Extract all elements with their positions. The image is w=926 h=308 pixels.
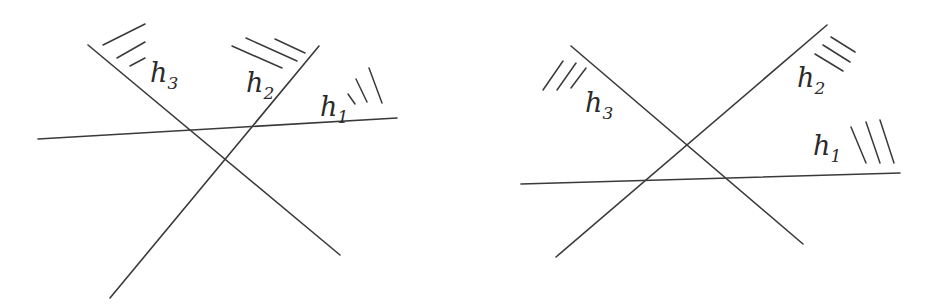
hatch-mark (823, 45, 850, 62)
hatch-marks-h2 (232, 38, 305, 68)
label-subscript: 1 (337, 107, 348, 127)
hatch-marks-h3 (103, 24, 145, 66)
label-base: h (246, 67, 263, 98)
panel-left: h3h2h1 (38, 24, 397, 298)
label-h1: h1 (320, 91, 348, 127)
label-h3: h3 (585, 87, 613, 123)
label-subscript: 2 (813, 78, 825, 98)
hatch-mark (130, 58, 145, 66)
boundary-line-h2 (556, 25, 827, 257)
label-subscript: 2 (262, 83, 274, 103)
hatch-mark (232, 46, 282, 68)
hatch-mark (246, 38, 297, 61)
label-subscript: 1 (830, 146, 841, 166)
hatch-mark (571, 68, 586, 88)
label-base: h (320, 91, 337, 122)
hatch-mark (103, 24, 145, 45)
hatch-mark (348, 94, 355, 104)
label-base: h (797, 62, 814, 93)
label-h1: h1 (813, 130, 841, 166)
boundary-line-h1 (521, 173, 900, 184)
boundary-line-h2 (110, 46, 319, 298)
hatch-marks-h1 (851, 120, 894, 163)
hatch-marks-h3 (543, 61, 586, 90)
label-subscript: 3 (602, 103, 613, 123)
label-base: h (585, 87, 602, 118)
panel-right: h3h2h1 (521, 25, 900, 257)
hatch-mark (369, 68, 382, 103)
hatch-mark (866, 122, 880, 163)
label-subscript: 3 (167, 73, 178, 93)
hatch-mark (815, 54, 843, 71)
hatch-mark (356, 79, 367, 102)
label-base: h (150, 57, 167, 88)
hatch-mark (117, 42, 145, 58)
label-base: h (813, 130, 830, 161)
hatch-marks-h1 (348, 68, 382, 104)
hatch-mark (275, 39, 305, 53)
hatch-mark (880, 120, 894, 163)
label-h2: h2 (246, 67, 274, 103)
half-plane-intersection-figure: h3h2h1h3h2h1 (0, 0, 926, 308)
label-h2: h2 (797, 62, 825, 98)
hatch-mark (851, 127, 866, 163)
boundary-line-h3 (88, 45, 340, 255)
diagram-canvas: h3h2h1h3h2h1 (0, 0, 926, 308)
label-h3: h3 (150, 57, 178, 93)
hatch-marks-h2 (815, 37, 855, 71)
hatch-mark (831, 37, 855, 52)
